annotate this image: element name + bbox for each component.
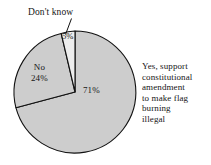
slice-value-dont-know: 5%: [62, 31, 74, 41]
slice-label-yes-line-5: burning: [142, 103, 210, 114]
slice-label-yes-line-1: Yes, support: [142, 61, 210, 72]
slice-label-yes-line-2: constitutional: [142, 72, 210, 83]
pie-chart-figure: Don't know 5% No 24% 71% Yes, support co…: [0, 0, 211, 165]
slice-value-no: 24%: [31, 73, 48, 84]
slice-label-yes-line-3: amendment: [142, 82, 210, 93]
slice-label-yes-line-4: to make flag: [142, 93, 210, 104]
slice-label-yes-line-6: illegal: [142, 114, 210, 125]
slice-value-yes: 71%: [83, 85, 100, 95]
slice-label-yes: Yes, support constitutional amendment to…: [142, 61, 210, 124]
slice-label-no-text: No: [31, 62, 48, 73]
slice-label-dont-know: Don't know: [28, 7, 73, 18]
slice-label-no: No 24%: [31, 62, 48, 83]
